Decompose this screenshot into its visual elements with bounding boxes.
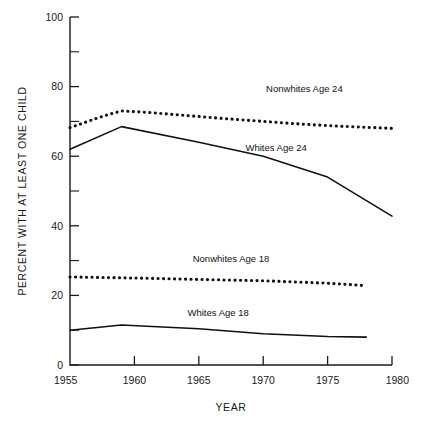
x-tick-label: 1975 [316, 374, 340, 386]
data-series [70, 111, 392, 337]
series-annotation-3: Whites Age 18 [187, 307, 248, 318]
y-tick-label: 60 [51, 150, 63, 162]
x-tick-label: 1970 [252, 374, 276, 386]
y-tick-label: 80 [51, 80, 63, 92]
y-tick-label: 100 [45, 11, 63, 23]
chart-figure: 020406080100195519601965197019751980 Non… [0, 0, 428, 429]
series-line-0 [70, 111, 392, 128]
line-chart: 020406080100195519601965197019751980 Non… [0, 0, 428, 429]
series-line-3 [70, 325, 366, 337]
x-tick-label: 1965 [187, 374, 211, 386]
series-annotation-2: Nonwhites Age 18 [193, 253, 270, 264]
series-annotation-1: Whites Age 24 [245, 142, 306, 153]
series-line-2 [70, 277, 366, 286]
y-tick-label: 40 [51, 220, 63, 232]
x-tick-label: 1980 [386, 374, 410, 386]
series-annotation-0: Nonwhites Age 24 [266, 83, 343, 94]
series-line-1 [70, 127, 392, 216]
y-axis-title: PERCENT WITH AT LEAST ONE CHILD [16, 86, 28, 295]
axis-tick-labels: 020406080100195519601965197019751980 [45, 11, 409, 386]
x-axis-title: YEAR [216, 401, 247, 413]
y-tick-label: 0 [57, 359, 63, 371]
y-tick-label: 20 [51, 289, 63, 301]
x-tick-label: 1955 [54, 374, 78, 386]
x-tick-label: 1960 [123, 374, 147, 386]
